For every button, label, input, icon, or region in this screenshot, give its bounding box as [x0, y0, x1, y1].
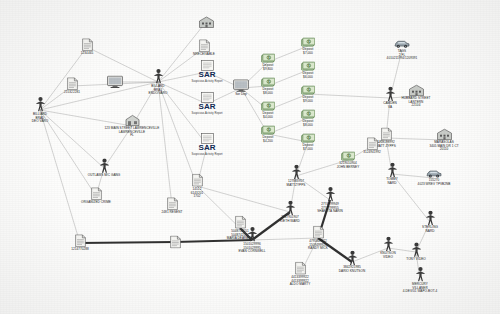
- car-icon: [426, 169, 442, 178]
- svg-text:$: $: [268, 56, 270, 60]
- person-glyph: [285, 200, 296, 215]
- node-label: 155270 4023 WREV TPVB2NB: [418, 179, 451, 186]
- diagram-node-n25[interactable]: $Deposit $8,000: [276, 109, 340, 127]
- building-icon: [409, 84, 424, 96]
- person-icon: [285, 200, 296, 215]
- diagram-node-n9[interactable]: 1214770288: [48, 234, 112, 252]
- address-icon: [125, 114, 140, 126]
- svg-text:$: $: [308, 136, 310, 140]
- svg-text:$: $: [308, 112, 310, 116]
- diagram-node-n12[interactable]: NRECEIVABLE: [172, 39, 236, 57]
- money-glyph: $: [261, 101, 275, 111]
- document-glyph: [295, 262, 306, 275]
- diagram-node-n15[interactable]: SARSuspicious Activity Report: [175, 133, 239, 157]
- node-label: Deposit $9,800: [263, 64, 274, 71]
- diagram-node-n48[interactable]: [143, 236, 207, 249]
- sar-subtext: Suspicious Activity Report: [191, 154, 222, 157]
- sar-title: SAR: [199, 103, 216, 111]
- diagram-node-n23[interactable]: $Deposit $6,000: [276, 61, 340, 79]
- diagram-node-n32[interactable]: 4795849922 1509499923 RANDY MICK: [286, 226, 350, 251]
- node-label: 2481 RESENT: [162, 211, 183, 215]
- diagram-node-n42[interactable]: 155270 4023 WREV TPVB2NB: [402, 169, 466, 186]
- car-glyph: [394, 40, 410, 49]
- svg-text:$: $: [308, 40, 310, 44]
- person-icon: [153, 69, 164, 84]
- svg-text:$: $: [348, 154, 350, 158]
- node-label: Deposit $6,000: [303, 72, 314, 79]
- diagram-node-n11[interactable]: [174, 16, 238, 28]
- diagram-node-n31[interactable]: 5048742551 5048742550 MARIA DEARBRO: [208, 216, 272, 241]
- money-icon: $: [301, 85, 315, 95]
- money-glyph: $: [301, 37, 315, 47]
- document-icon: [91, 187, 102, 200]
- sar-subtext: Suspicious Activity Report: [191, 113, 222, 116]
- person-glyph: [425, 210, 436, 225]
- diagram-node-n47[interactable]: $1219010904 JOHN BERNEY: [316, 151, 380, 169]
- node-label: NRECEIVABLE: [193, 53, 215, 57]
- document-glyph: [313, 226, 324, 239]
- money-icon: $: [301, 109, 315, 119]
- diagram-node-n22[interactable]: $Deposit $7,000: [276, 37, 340, 55]
- monitor-glyph: [107, 76, 123, 89]
- person-glyph: [291, 164, 302, 179]
- document-icon: [67, 77, 78, 90]
- node-label: 2747901907 KIETH WARD: [280, 216, 300, 223]
- car-icon: [394, 40, 410, 49]
- diagram-node-n16[interactable]: 14512 6143201 1702: [165, 174, 229, 199]
- node-label: Deposit $7,000: [303, 144, 314, 151]
- diagram-node-n45[interactable]: MERCURY VILLANER 4-DEV/01 WAPO-BOT-4: [388, 267, 452, 294]
- link-analysis-diagram: BILLIARD BRAD DEO VARO1234465215322281BI…: [0, 0, 500, 314]
- person-icon: [291, 164, 302, 179]
- car-glyph: [426, 169, 442, 178]
- money-icon: $: [301, 133, 315, 143]
- person-glyph: [153, 69, 164, 84]
- node-label: Deposit $4,200: [263, 136, 274, 143]
- document-glyph: [82, 38, 93, 51]
- document-glyph: [167, 197, 178, 210]
- node-label: TAGS 2 FL 4010211994/1209391: [387, 50, 418, 61]
- document-glyph: [235, 216, 246, 229]
- money-glyph: $: [261, 53, 275, 63]
- diagram-node-n39[interactable]: MARASOLAS 3405 MAIN DR 1 CT 20110: [412, 128, 476, 152]
- person-glyph: [35, 97, 46, 112]
- building-glyph: [437, 128, 452, 140]
- node-label: 5048742551 5048742550 MARIA DEARBRO: [227, 230, 253, 241]
- diagram-node-n26[interactable]: $Deposit $7,000: [276, 133, 340, 151]
- node-label: MERCURY VILLANER 4-DEV/01 WAPO-BOT-4: [403, 283, 438, 294]
- document-glyph: [67, 77, 78, 90]
- node-label: ORGANIZED CRIME: [81, 201, 111, 205]
- diagram-node-n43[interactable]: STERLING NARD: [398, 210, 462, 233]
- document-icon: [167, 197, 178, 210]
- node-label: 3842921985 DARIO KNUTSON: [339, 266, 365, 273]
- document-icon: [75, 234, 86, 247]
- address-glyph: [125, 114, 140, 126]
- diagram-node-n44[interactable]: TONY VIDEO: [384, 242, 448, 262]
- diagram-node-n2[interactable]: 1234465: [55, 38, 119, 56]
- money-glyph: $: [301, 61, 315, 71]
- node-label: TOMMY NARD: [386, 178, 398, 185]
- document-glyph: [91, 187, 102, 200]
- diagram-node-n7[interactable]: OUTLAWS M/C GANG: [72, 158, 136, 178]
- money-glyph: $: [301, 109, 315, 119]
- node-label: TONY VIDEO: [406, 258, 425, 262]
- sar-title: SAR: [199, 71, 216, 79]
- svg-text:$: $: [268, 80, 270, 84]
- money-icon: $: [261, 77, 275, 87]
- document-icon: [235, 216, 246, 229]
- document-icon: [313, 226, 324, 239]
- diagram-node-n37[interactable]: HUBBARD STREET LANTERN 22104: [384, 84, 448, 108]
- node-label: 1219010904 JOHN BERNEY: [337, 162, 360, 169]
- money-glyph: $: [301, 85, 315, 95]
- building-glyph: [409, 84, 424, 96]
- building-glyph: [199, 16, 214, 28]
- diagram-node-n8[interactable]: ORGANIZED CRIME: [64, 187, 128, 205]
- money-icon: $: [301, 37, 315, 47]
- diagram-node-n24[interactable]: $Deposit $9,000: [276, 85, 340, 103]
- diagram-node-n10[interactable]: 2481 RESENT: [140, 197, 204, 215]
- person-glyph: [325, 187, 336, 202]
- diagram-node-n38[interactable]: TAGS 2 FL 4010211994/1209391: [370, 40, 434, 61]
- document-glyph: [367, 137, 378, 150]
- diagram-node-n6[interactable]: 123 MAIN STREET LAWRENCEVILLE LAWRENCEVI…: [100, 114, 164, 138]
- diagram-node-n1[interactable]: BILLIARD BRAD DEO VARO: [8, 97, 72, 124]
- node-label: 4795849922 1509499923 RANDY MICK: [308, 240, 328, 251]
